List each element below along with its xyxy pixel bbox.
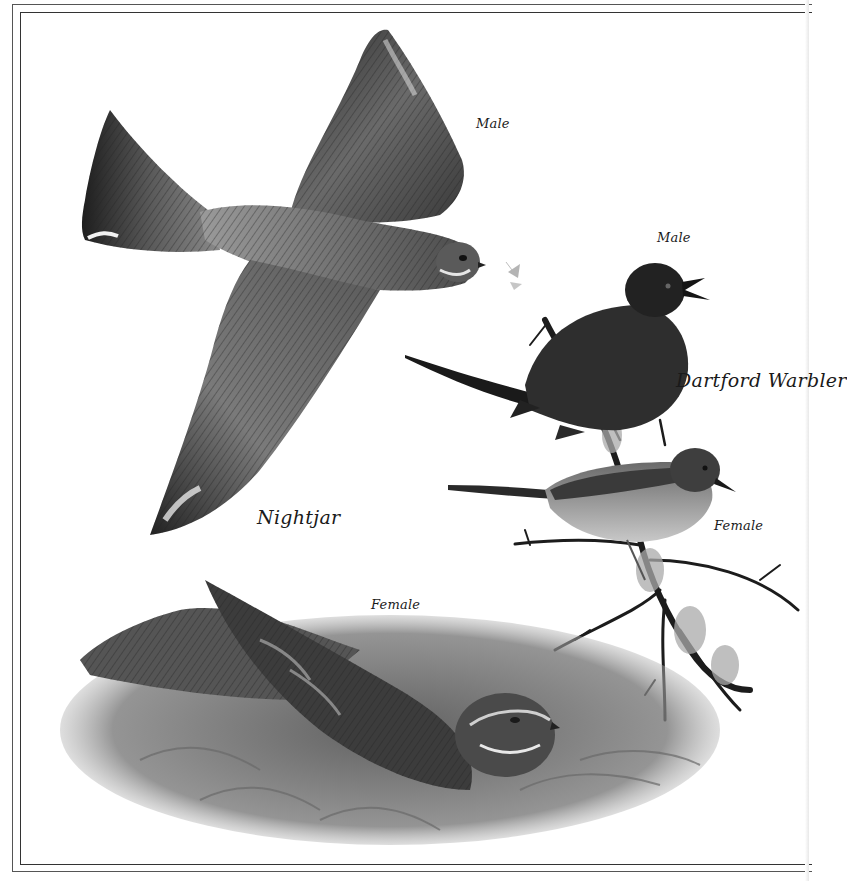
label-warbler-male: Male — [657, 230, 691, 245]
warbler-female-head — [670, 448, 720, 492]
warbler-male-head — [625, 263, 685, 317]
dartford-warbler-female — [448, 448, 736, 580]
label-nightjar-species: Nightjar — [257, 506, 340, 528]
moth-prey — [506, 262, 522, 290]
nightjar-female-head — [455, 693, 555, 777]
label-nightjar-male: Male — [476, 116, 510, 131]
label-warbler-species: Dartford Warbler — [676, 369, 847, 391]
page-edge-shadow — [805, 0, 809, 881]
lichen — [602, 417, 739, 685]
nightjar-head — [436, 242, 480, 282]
nightjar-female-resting — [60, 580, 720, 845]
nightjar-male-flying — [82, 30, 522, 535]
label-warbler-female: Female — [714, 518, 763, 533]
label-nightjar-female: Female — [371, 597, 420, 612]
dartford-warbler-male — [405, 263, 710, 440]
